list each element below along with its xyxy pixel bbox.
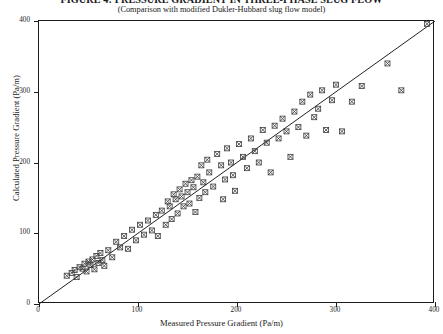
data-point	[197, 195, 202, 200]
data-point	[92, 267, 97, 272]
data-point	[171, 192, 176, 197]
x-tick-label: 200	[216, 306, 256, 314]
data-point	[308, 92, 313, 97]
data-point	[236, 142, 241, 147]
data-point	[339, 129, 344, 134]
data-point	[203, 190, 208, 195]
data-point	[244, 166, 249, 171]
data-point	[195, 174, 200, 179]
data-point	[272, 123, 277, 128]
data-point	[179, 194, 184, 199]
data-point	[276, 136, 281, 141]
data-point	[169, 217, 174, 222]
data-point	[233, 188, 238, 193]
data-point	[189, 178, 194, 183]
data-point	[205, 157, 210, 162]
data-point	[183, 181, 188, 186]
data-point	[193, 210, 198, 215]
data-point	[280, 116, 285, 121]
data-point	[349, 99, 354, 104]
data-point	[221, 197, 226, 202]
data-point	[181, 204, 186, 209]
data-point	[296, 125, 301, 130]
data-point	[248, 136, 253, 141]
data-point	[260, 127, 265, 132]
data-point	[399, 88, 404, 93]
data-point	[153, 212, 158, 217]
data-point	[187, 201, 192, 206]
parity-line	[39, 21, 435, 304]
data-point	[145, 218, 150, 223]
data-point	[268, 170, 273, 175]
data-point	[173, 197, 178, 202]
data-point	[324, 127, 329, 132]
plot-canvas	[39, 21, 435, 304]
x-tick-label: 100	[117, 306, 157, 314]
plot-area	[38, 20, 434, 303]
data-point	[185, 190, 190, 195]
data-point	[211, 184, 216, 189]
data-point	[141, 232, 146, 237]
data-point	[225, 146, 230, 151]
data-point	[106, 248, 111, 253]
data-point	[110, 255, 115, 260]
x-tick-label: 0	[18, 306, 58, 314]
data-point	[126, 246, 131, 251]
data-point	[201, 180, 206, 185]
data-point	[334, 82, 339, 87]
data-point	[256, 160, 261, 165]
data-point	[175, 211, 180, 216]
data-point	[199, 163, 204, 168]
data-point	[359, 84, 364, 89]
data-point	[231, 173, 236, 178]
data-point	[304, 133, 309, 138]
data-point	[312, 115, 317, 120]
data-point	[114, 239, 119, 244]
data-point	[74, 275, 79, 280]
y-tick	[34, 21, 39, 22]
data-point	[155, 234, 160, 239]
x-tick-label: 300	[315, 306, 355, 314]
x-axis-title: Measured Pressure Gradient (Pa/m)	[0, 318, 443, 328]
data-point	[219, 163, 224, 168]
y-axis-title: Calculated Pressure Gradient (Pa/m)	[11, 0, 21, 278]
data-point	[167, 204, 172, 209]
data-point	[64, 273, 69, 278]
data-point	[177, 187, 182, 192]
data-point	[159, 208, 164, 213]
data-point	[385, 61, 390, 66]
data-point	[137, 222, 142, 227]
y-tick	[34, 233, 39, 234]
data-point	[284, 129, 289, 134]
data-point	[288, 154, 293, 159]
data-point	[292, 109, 297, 114]
data-point	[163, 222, 168, 227]
x-tick-label: 400	[414, 306, 443, 314]
data-point	[316, 106, 321, 111]
figure-container: FIGURE 4: PRESSURE GRADIENT IN THREE-PHA…	[0, 0, 443, 334]
data-point	[330, 98, 335, 103]
y-tick	[34, 92, 39, 93]
data-point	[165, 199, 170, 204]
figure-subtitle: (Comparison with modified Dukler-Hubbard…	[0, 5, 443, 14]
data-point	[300, 99, 305, 104]
y-tick	[34, 163, 39, 164]
data-point	[425, 21, 430, 26]
data-point	[130, 227, 135, 232]
data-point	[191, 185, 196, 190]
data-point	[223, 177, 228, 182]
data-point	[122, 234, 127, 239]
data-point	[320, 88, 325, 93]
data-point	[134, 238, 139, 243]
data-point	[215, 152, 220, 157]
data-point	[229, 160, 234, 165]
data-point	[207, 170, 212, 175]
data-point	[149, 228, 154, 233]
data-point	[102, 263, 107, 268]
data-point-group	[64, 21, 429, 279]
